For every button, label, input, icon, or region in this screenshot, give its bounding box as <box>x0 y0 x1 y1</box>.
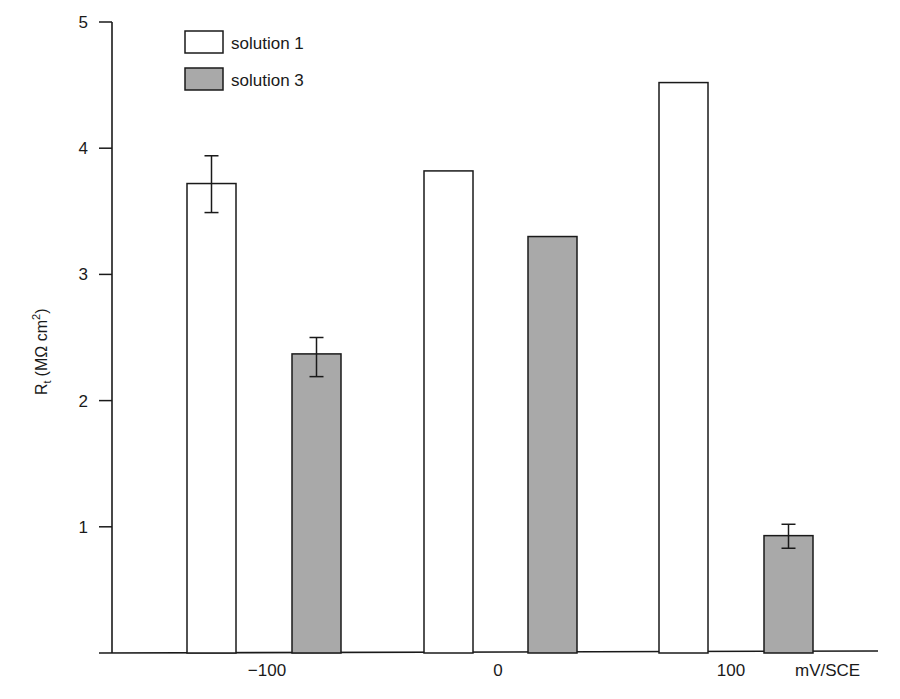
legend-item-solution-3: solution 3 <box>185 68 304 90</box>
legend-swatch-solution-3 <box>185 68 223 90</box>
x-tick-label: −100 <box>248 661 286 680</box>
legend-swatch-solution-1 <box>185 31 223 53</box>
bar-solution-3-1 <box>528 237 577 653</box>
legend-label-solution-3: solution 3 <box>231 71 304 90</box>
y-tick-label: 5 <box>79 13 88 32</box>
bar-solution-1-1 <box>424 171 473 653</box>
plot-area: 12345−1000100 <box>79 13 878 680</box>
y-tick-label: 2 <box>79 392 88 411</box>
y-tick-label: 3 <box>79 265 88 284</box>
y-axis-title: Rt(MΩ cm2) <box>30 309 53 395</box>
x-tick-label: 0 <box>493 661 502 680</box>
x-axis-unit-label: mV/SCE <box>795 661 860 680</box>
legend: solution 1 solution 3 <box>185 31 304 90</box>
legend-item-solution-1: solution 1 <box>185 31 304 53</box>
y-tick-label: 1 <box>79 518 88 537</box>
bar-solution-3-2 <box>764 536 813 653</box>
bar-solution-3-0 <box>292 354 341 653</box>
bar-solution-1-0 <box>187 184 236 653</box>
legend-label-solution-1: solution 1 <box>231 34 304 53</box>
y-tick-label: 4 <box>79 139 88 158</box>
bar-chart: 12345−1000100 solution 1 solution 3 Rt(M… <box>0 0 900 699</box>
bar-solution-1-2 <box>659 83 708 653</box>
x-tick-label: 100 <box>717 661 745 680</box>
